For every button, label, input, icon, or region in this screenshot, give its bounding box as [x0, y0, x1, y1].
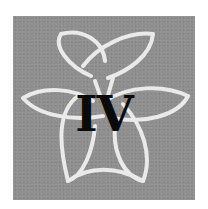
chapter-emblem: IV: [13, 16, 195, 200]
roman-numeral: IV: [13, 90, 195, 138]
